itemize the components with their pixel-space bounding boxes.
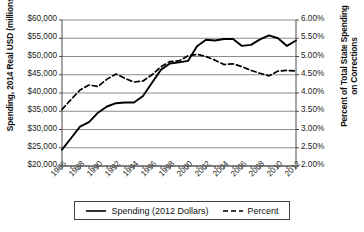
gridlines bbox=[62, 20, 296, 166]
series-line-spending bbox=[62, 35, 296, 149]
legend-label-spending: Spending (2012 Dollars) bbox=[111, 206, 208, 216]
legend-solid-line-icon bbox=[85, 207, 107, 215]
legend-item-percent: Percent bbox=[222, 206, 279, 216]
plot-area bbox=[0, 0, 364, 232]
legend-label-percent: Percent bbox=[248, 206, 279, 216]
axis-frame bbox=[59, 20, 299, 169]
legend-dashed-line-icon bbox=[222, 207, 244, 215]
line-chart: Spending, 2014 Real USD (millions) Perce… bbox=[0, 0, 364, 232]
data-series bbox=[62, 35, 296, 149]
legend: Spending (2012 Dollars) Percent bbox=[74, 201, 290, 220]
legend-item-spending: Spending (2012 Dollars) bbox=[85, 206, 208, 216]
